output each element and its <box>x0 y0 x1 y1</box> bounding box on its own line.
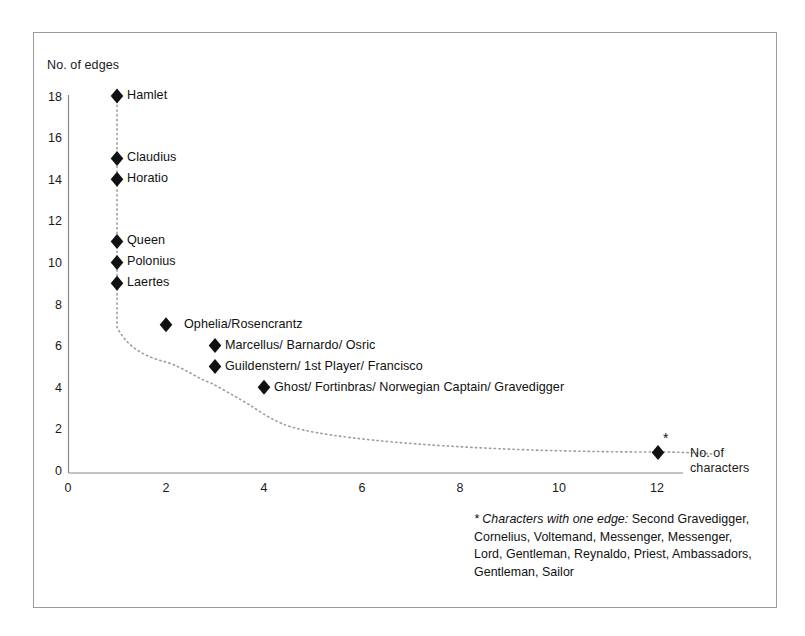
footnote-one-edge-characters: * Characters with one edge: Second Grave… <box>474 511 762 581</box>
footnote-lead: * Characters with one edge: <box>474 512 628 526</box>
